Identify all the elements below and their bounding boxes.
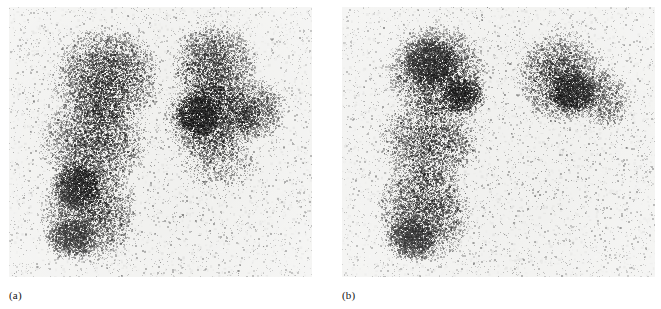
figure-root: (a) (b) bbox=[0, 0, 661, 309]
scintigram-panel-b bbox=[342, 7, 655, 277]
scintigram-image-b bbox=[342, 7, 655, 277]
scintigram-image-a bbox=[9, 7, 312, 277]
panel-caption-b: (b) bbox=[342, 289, 355, 302]
panel-caption-a: (a) bbox=[9, 289, 22, 302]
scintigram-panel-a bbox=[9, 7, 312, 277]
